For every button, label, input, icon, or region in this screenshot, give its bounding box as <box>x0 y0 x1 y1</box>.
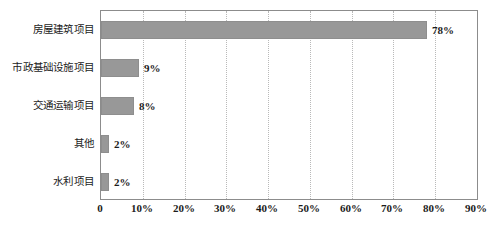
bar-2 <box>101 97 134 115</box>
bar-value-4: 2% <box>114 173 131 191</box>
gridline-7 <box>393 11 394 199</box>
bar-0 <box>101 21 427 39</box>
category-label-0: 房屋建筑项目 <box>0 23 94 35</box>
xtick-label-9: 90% <box>465 202 487 214</box>
gridline-6 <box>352 11 353 199</box>
xtick-label-0: 0 <box>97 202 103 214</box>
bar-value-2: 8% <box>139 97 156 115</box>
category-label-3: 其他 <box>0 137 94 149</box>
bar-value-0: 78% <box>432 21 454 39</box>
category-label-2: 交通运输项目 <box>0 99 94 111</box>
bar-value-1: 9% <box>144 59 161 77</box>
bar-4 <box>101 173 109 191</box>
category-label-4: 水利项目 <box>0 175 94 187</box>
xtick-label-4: 40% <box>256 202 278 214</box>
xtick-label-7: 70% <box>381 202 403 214</box>
gridline-4 <box>268 11 269 199</box>
xtick-label-3: 30% <box>214 202 236 214</box>
bar-1 <box>101 59 139 77</box>
bar-value-3: 2% <box>114 135 131 153</box>
xtick-label-1: 10% <box>131 202 153 214</box>
xtick-label-8: 80% <box>423 202 445 214</box>
gridline-8 <box>435 11 436 199</box>
gridline-3 <box>226 11 227 199</box>
gridline-5 <box>310 11 311 199</box>
category-axis-labels: 房屋建筑项目 市政基础设施项目 交通运输项目 其他 水利项目 <box>0 10 97 200</box>
bar-3 <box>101 135 109 153</box>
gridline-2 <box>185 11 186 199</box>
xtick-label-5: 50% <box>298 202 320 214</box>
xtick-label-6: 60% <box>340 202 362 214</box>
x-axis-labels: 0 10% 20% 30% 40% 50% 60% 70% 80% 90% <box>100 202 478 222</box>
category-label-1: 市政基础设施项目 <box>0 61 94 73</box>
bar-chart: 房屋建筑项目 市政基础设施项目 交通运输项目 其他 水利项目 78% 9% 8%… <box>0 0 493 232</box>
plot-area: 78% 9% 8% 2% 2% <box>100 10 478 200</box>
xtick-label-2: 20% <box>173 202 195 214</box>
